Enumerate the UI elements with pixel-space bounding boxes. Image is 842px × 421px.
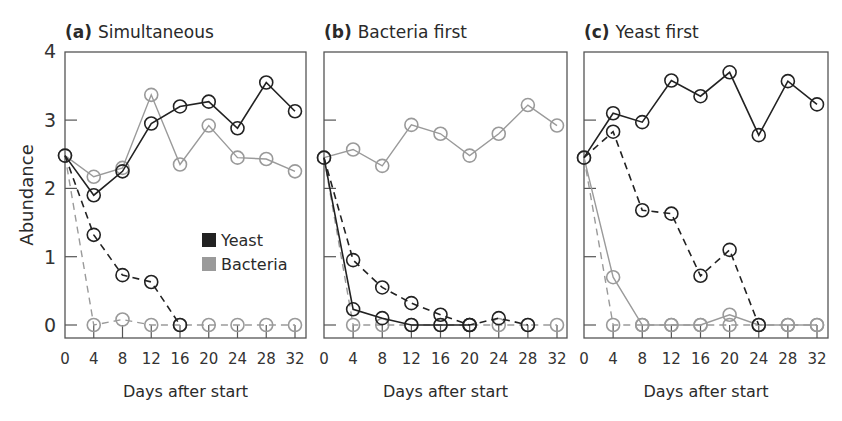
plot-frame [584, 52, 828, 338]
x-tick-label: 4 [89, 350, 99, 368]
series-bacteria-solid [318, 99, 564, 173]
x-tick-label: 20 [460, 350, 479, 368]
series-line [324, 105, 557, 166]
plot-frame [65, 52, 306, 338]
y-tick-label: 4 [44, 40, 56, 62]
x-tick-label: 32 [807, 350, 826, 368]
x-tick-label: 8 [637, 350, 647, 368]
y-tick-label: 3 [44, 109, 56, 131]
series-bacteria-dashed [65, 156, 302, 332]
x-axis-label: Days after start [383, 382, 508, 401]
x-tick-label: 0 [579, 350, 589, 368]
x-tick-label: 8 [377, 350, 387, 368]
x-tick-label: 32 [547, 350, 566, 368]
legend-label-yeast: Yeast [220, 231, 263, 250]
x-tick-label: 32 [285, 350, 304, 368]
panel-b: (b) Bacteria first048121620242832Days af… [318, 22, 568, 401]
series-yeast-solid [318, 151, 477, 331]
panel-title: (a) Simultaneous [65, 22, 214, 42]
chart-figure: Abundance (a) Simultaneous01234048121620… [0, 0, 842, 421]
series-line [584, 158, 817, 325]
x-axis-label: Days after start [643, 382, 768, 401]
data-point-marker [723, 243, 736, 256]
x-tick-label: 20 [199, 350, 218, 368]
x-axis-label: Days after start [123, 382, 248, 401]
series-line [324, 158, 528, 325]
x-tick-label: 0 [60, 350, 70, 368]
series-line [584, 158, 817, 325]
x-tick-label: 4 [608, 350, 618, 368]
x-tick-label: 12 [662, 350, 681, 368]
y-axis-label: Abundance [16, 144, 37, 245]
x-tick-label: 4 [348, 350, 358, 368]
series-line [324, 158, 557, 325]
x-tick-label: 12 [402, 350, 421, 368]
panel-title: (b) Bacteria first [324, 22, 467, 42]
x-tick-label: 24 [489, 350, 508, 368]
x-tick-label: 28 [778, 350, 797, 368]
y-tick-label: 1 [44, 246, 56, 268]
data-point-marker [347, 254, 360, 267]
x-tick-label: 8 [118, 350, 128, 368]
x-tick-label: 28 [257, 350, 276, 368]
x-tick-label: 20 [720, 350, 739, 368]
series-bacteria-solid [59, 88, 302, 183]
x-tick-label: 12 [142, 350, 161, 368]
data-point-marker [405, 297, 418, 310]
series-line [65, 156, 180, 325]
y-tick-label: 2 [44, 177, 56, 199]
series-line [584, 132, 759, 325]
x-tick-label: 24 [228, 350, 247, 368]
x-tick-label: 16 [170, 350, 189, 368]
series-bacteria-solid [578, 151, 824, 331]
series-yeast-solid [578, 66, 824, 164]
x-tick-label: 24 [749, 350, 768, 368]
series-yeast-dashed [584, 125, 765, 331]
x-tick-label: 16 [691, 350, 710, 368]
legend-swatch-bacteria [202, 257, 216, 271]
legend-swatch-yeast [202, 233, 216, 247]
panel-c: (c) Yeast first048121620242832Days after… [578, 22, 829, 401]
legend: YeastBacteria [202, 231, 288, 274]
x-tick-label: 16 [431, 350, 450, 368]
plot-frame [324, 52, 567, 338]
series-line [324, 158, 470, 325]
data-point-marker [116, 313, 129, 326]
y-tick-label: 0 [44, 314, 56, 336]
panel-title: (c) Yeast first [584, 22, 699, 42]
x-tick-label: 28 [518, 350, 537, 368]
x-tick-label: 0 [319, 350, 329, 368]
data-point-marker [145, 275, 158, 288]
legend-label-bacteria: Bacteria [221, 255, 288, 274]
series-bacteria-dashed [324, 158, 564, 332]
series-yeast-dashed [324, 158, 534, 332]
panel-a: (a) Simultaneous01234048121620242832Days… [44, 22, 306, 401]
series-bacteria-dashed [584, 158, 824, 332]
panels-group: (a) Simultaneous01234048121620242832Days… [44, 22, 828, 401]
